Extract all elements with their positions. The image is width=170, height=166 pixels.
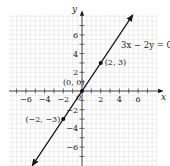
y-tick-label: 6 [73, 31, 78, 40]
x-axis-label: x [161, 92, 166, 102]
y-tick-label: 4 [73, 50, 78, 59]
point-label: (−2, −3) [25, 115, 60, 124]
data-point [80, 89, 84, 93]
line-graph: x y 0 −6−4−2246642−2−4−6 (0, 0)(2, 3)(−2… [0, 0, 170, 166]
y-tick-label: −2 [66, 106, 78, 115]
point-label: (2, 3) [105, 58, 127, 67]
point-label: (0, 0) [63, 78, 85, 87]
data-point [61, 117, 65, 121]
y-tick-label: 2 [73, 68, 78, 77]
equation-label: 3x − 2y = 0 [121, 40, 170, 50]
x-tick-label: −6 [20, 95, 32, 104]
y-tick-label: −4 [66, 124, 78, 133]
x-tick-label: 4 [117, 95, 122, 104]
x-tick-label: −2 [57, 95, 69, 104]
x-tick-label: −4 [39, 95, 51, 104]
x-tick-label: 6 [136, 95, 141, 104]
y-tick-label: −6 [66, 143, 78, 152]
x-tick-label: 2 [98, 95, 103, 104]
y-axis-label: y [71, 4, 78, 14]
data-point [99, 61, 103, 65]
